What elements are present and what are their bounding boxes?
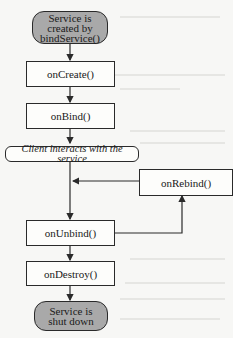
ondestroy-label: onDestroy() [44,269,97,279]
onbind-label: onBind() [51,111,91,121]
onbind-node: onBind() [26,103,115,129]
start-label-line1: Service is [48,13,91,23]
end-label-line2: shut down [48,316,94,326]
end-node: Service is shut down [34,301,108,331]
client-interacts-label: Client interacts with the service [6,144,138,164]
oncreate-node: onCreate() [26,61,115,87]
onrebind-label: onRebind() [161,178,211,188]
client-interacts-node: Client interacts with the service [5,146,139,162]
start-label-line2: created by [47,23,93,33]
onrebind-node: onRebind() [139,169,233,196]
start-node: Service is created by bindService() [32,11,108,44]
onunbind-label: onUnbind() [45,228,96,238]
ondestroy-node: onDestroy() [26,261,115,286]
onunbind-node: onUnbind() [26,220,115,246]
start-label-line3: bindService() [40,33,100,43]
oncreate-label: onCreate() [47,69,94,79]
